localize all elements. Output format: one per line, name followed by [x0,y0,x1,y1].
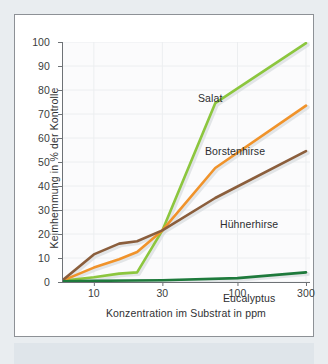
series-shadow-0 [64,45,308,282]
plot-area [62,42,310,282]
x-tick-label: 10 [88,287,100,299]
gridlines [62,42,310,282]
x-axis-title: Konzentration im Substrat in ppm [62,307,310,319]
y-axis-title: Keimhemmung in % der Kontrolle [48,63,60,273]
series-label-borstenhirse: Borstenhirse [205,145,265,157]
x-tick-label: 300 [297,287,315,299]
series-label-h-hnerhirse: Hühnerhirse [220,218,278,230]
chart-card: 0102030405060708090100 Keimhemmung in % … [14,14,314,337]
series-line-h-hnerhirse [62,151,306,281]
page-bottom-band [14,343,314,364]
y-tick-label: 100 [32,36,50,48]
x-tick-label: 30 [156,287,168,299]
series-shadows [64,45,308,282]
y-tick-label: 0 [44,276,50,288]
page-root: 0102030405060708090100 Keimhemmung in % … [0,0,328,364]
chart-svg [62,42,310,282]
series-label-salat: Salat [198,92,222,104]
series-label-eucalyptus: Eucalyptus [223,292,275,304]
